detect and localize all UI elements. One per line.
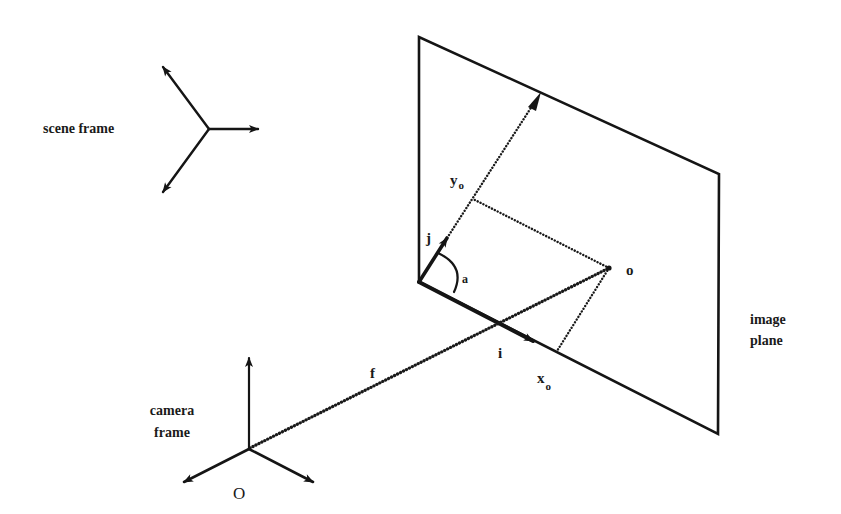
focal-line-f bbox=[250, 268, 609, 448]
angle-label: a bbox=[462, 272, 468, 286]
image-plane-label-line1: image bbox=[750, 312, 786, 327]
y-coord-label: yo bbox=[450, 172, 465, 191]
unit-i-label: i bbox=[498, 345, 502, 361]
image-plane-outline bbox=[419, 37, 719, 434]
image-point-label: o bbox=[626, 262, 634, 278]
symbol-labels: o f i j a xo yo bbox=[370, 172, 634, 392]
focal-length-label: f bbox=[370, 365, 376, 381]
camera-frame-label-line2: frame bbox=[154, 425, 190, 440]
y-projection-line bbox=[473, 199, 609, 268]
unit-vector-i bbox=[419, 282, 533, 341]
x-coord-base: x bbox=[537, 370, 545, 386]
scene-axis-upper-left bbox=[163, 67, 209, 129]
y-axis-dotted bbox=[449, 103, 534, 235]
construction-lines bbox=[250, 92, 612, 448]
unit-j-label: j bbox=[425, 230, 431, 246]
diagram-svg: scene frame image plane camera frame O bbox=[0, 0, 841, 514]
y-coord-sub: o bbox=[459, 179, 465, 191]
image-plane-label-line2: plane bbox=[750, 333, 783, 348]
scene-axis-lower-left bbox=[163, 129, 209, 192]
x-coord-sub: o bbox=[546, 380, 552, 392]
image-plane: image plane bbox=[419, 37, 786, 434]
camera-frame: camera frame O bbox=[150, 358, 313, 503]
unit-vector-j bbox=[419, 238, 447, 282]
angle-arc bbox=[438, 253, 458, 292]
camera-axis-lower-left bbox=[184, 449, 249, 482]
camera-axis-lower-right bbox=[249, 449, 313, 482]
x-coord-label: xo bbox=[537, 370, 552, 392]
scene-frame: scene frame bbox=[43, 67, 258, 192]
image-point-marker bbox=[606, 265, 611, 270]
scene-frame-label: scene frame bbox=[43, 121, 114, 136]
origin-label: O bbox=[233, 484, 245, 503]
camera-frame-label-line1: camera bbox=[150, 403, 194, 418]
y-coord-base: y bbox=[450, 172, 458, 188]
diagram-canvas: scene frame image plane camera frame O bbox=[0, 0, 841, 514]
